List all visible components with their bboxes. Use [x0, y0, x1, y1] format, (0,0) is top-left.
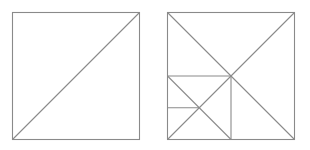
right-square-figure: [168, 13, 295, 140]
geometry-diagram: [0, 0, 310, 150]
left-square-figure: [13, 13, 140, 140]
diagonal-bottom-left-to-top-right: [13, 13, 140, 140]
